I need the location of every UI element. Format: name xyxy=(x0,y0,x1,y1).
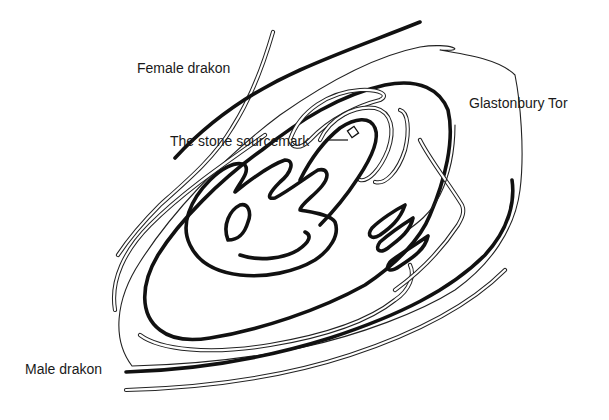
stone-sourcemark-label: The stone sourcemark xyxy=(170,133,309,149)
female-drakon-label: Female drakon xyxy=(137,60,230,76)
male-drakon-label: Male drakon xyxy=(25,361,102,377)
tor-contour-drawing xyxy=(0,0,609,420)
male-drakon-outer-line xyxy=(126,270,505,390)
glastonbury-tor-label: Glastonbury Tor xyxy=(469,95,568,111)
left-sweep-contours xyxy=(114,135,412,350)
